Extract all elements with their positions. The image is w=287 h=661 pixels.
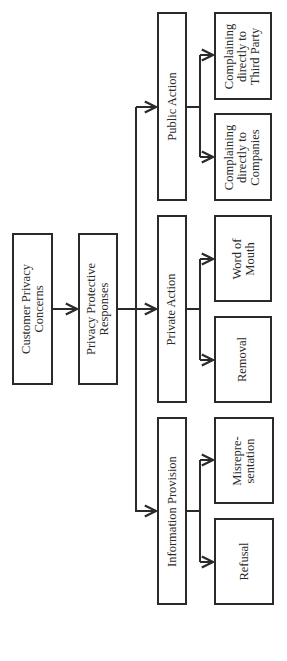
node-label: Private Action [166,273,179,345]
node-private-action: Private Action [157,215,187,403]
node-label: Privacy Protective Responses [85,263,111,355]
node-label: Refusal [238,542,251,580]
node-privacy-protective-responses: Privacy Protective Responses [78,233,118,385]
node-label: Complaining directly to Third Party [224,23,263,88]
node-word-of-mouth: Word of Mouth [214,215,272,302]
node-refusal: Refusal [214,518,274,605]
node-label: Information Provision [166,456,179,567]
node-public-action: Public Action [157,12,187,201]
node-customer-privacy-concerns: Customer Privacy Concerns [12,233,53,385]
node-label: Word of Mouth [230,238,256,279]
node-complaining-third-party: Complaining directly to Third Party [214,12,272,100]
node-label: Complaining directly to Companies [224,124,263,189]
node-removal: Removal [214,316,272,403]
node-misrepresentation: Misrepre- sentation [214,417,274,504]
node-label: Customer Privacy Concerns [20,264,46,354]
node-label: Removal [236,337,249,382]
node-label: Public Action [166,72,179,140]
node-complaining-companies: Complaining directly to Companies [214,113,272,201]
node-label: Misrepre- sentation [231,436,257,485]
node-information-provision: Information Provision [157,417,187,605]
